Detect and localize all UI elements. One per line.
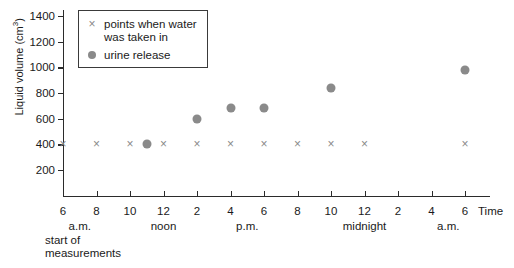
x-sublabel-midnight-3: midnight	[343, 220, 386, 232]
chart-canvas: 200400600800100012001400Liquid volume (c…	[0, 0, 514, 268]
x-tick-label-4: 2	[194, 205, 200, 217]
y-axis-line	[63, 10, 64, 196]
data-point-water-1: ×	[93, 138, 100, 150]
x-tick-label-2: 10	[124, 205, 137, 217]
x-tick-mark	[231, 191, 232, 196]
x-axis-title: Time	[478, 205, 503, 217]
legend-label-urine: urine release	[104, 49, 170, 62]
x-tick-label-1: 8	[93, 205, 99, 217]
y-tick-mark	[58, 67, 63, 68]
legend-marker-x-icon: ×	[88, 18, 95, 30]
data-point-water-10: ×	[461, 138, 468, 150]
y-tick-mark	[58, 42, 63, 43]
x-tick-mark	[398, 191, 399, 196]
y-tick-label-600: 600	[21, 113, 55, 125]
x-tick-mark	[264, 191, 265, 196]
y-tick-label-200: 200	[21, 164, 55, 176]
x-tick-label-9: 12	[358, 205, 371, 217]
x-tick-mark	[97, 191, 98, 196]
x-tick-label-6: 6	[261, 205, 267, 217]
legend-label-water-line1: points when water	[104, 18, 197, 31]
data-point-urine-1	[193, 114, 202, 123]
data-point-urine-0	[142, 140, 151, 149]
y-tick-mark	[58, 119, 63, 120]
y-tick-label-1000: 1000	[21, 61, 55, 73]
x-tick-mark	[197, 191, 198, 196]
y-tick-label-800: 800	[21, 87, 55, 99]
data-point-water-9: ×	[361, 138, 368, 150]
data-point-water-5: ×	[227, 138, 234, 150]
annotation-line-2: measurements	[45, 247, 121, 260]
data-point-water-6: ×	[260, 138, 267, 150]
data-point-urine-4	[327, 83, 336, 92]
data-point-water-8: ×	[327, 138, 334, 150]
data-point-urine-5	[461, 65, 470, 74]
data-point-water-2: ×	[126, 138, 133, 150]
x-sublabel-noon-1: noon	[151, 220, 177, 232]
x-tick-mark	[465, 191, 466, 196]
y-tick-label-400: 400	[21, 138, 55, 150]
x-tick-label-8: 10	[325, 205, 338, 217]
x-tick-label-10: 2	[395, 205, 401, 217]
x-sublabel-am-4: a.m.	[437, 220, 459, 232]
x-tick-mark	[164, 191, 165, 196]
data-point-urine-2	[226, 104, 235, 113]
x-sublabel-am-0: a.m.	[69, 220, 91, 232]
x-tick-label-3: 12	[157, 205, 170, 217]
x-tick-label-12: 6	[462, 205, 468, 217]
y-tick-mark	[58, 170, 63, 171]
data-point-water-7: ×	[294, 138, 301, 150]
y-tick-mark	[58, 93, 63, 94]
legend-marker-dot-icon	[88, 51, 96, 59]
y-axis-title: Liquid volume (cm3)	[11, 0, 25, 137]
legend-label-water-line2: was taken in	[104, 31, 168, 44]
data-point-water-3: ×	[160, 138, 167, 150]
x-tick-label-5: 4	[227, 205, 233, 217]
x-tick-label-0: 6	[60, 205, 66, 217]
data-point-urine-3	[260, 104, 269, 113]
x-tick-mark	[63, 191, 64, 196]
x-tick-mark	[432, 191, 433, 196]
y-tick-label-1200: 1200	[21, 36, 55, 48]
y-tick-mark	[58, 16, 63, 17]
data-point-water-4: ×	[193, 138, 200, 150]
x-sublabel-pm-2: p.m.	[236, 220, 258, 232]
x-tick-mark	[331, 191, 332, 196]
x-tick-label-7: 8	[294, 205, 300, 217]
annotation-line-1: start of	[45, 234, 80, 247]
data-point-water-0: ×	[59, 138, 66, 150]
x-tick-mark	[365, 191, 366, 196]
x-axis-line	[63, 196, 490, 197]
x-tick-mark	[298, 191, 299, 196]
x-tick-mark	[130, 191, 131, 196]
y-tick-label-1400: 1400	[21, 10, 55, 22]
x-tick-label-11: 4	[428, 205, 434, 217]
